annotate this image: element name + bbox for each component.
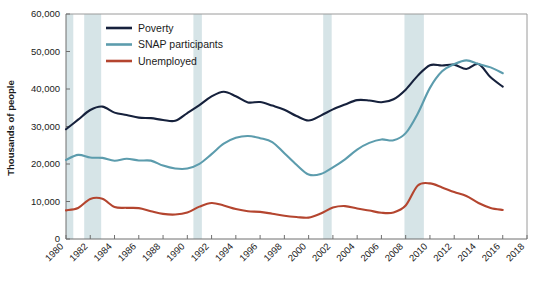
y-tick-label: 50,000 [31,46,60,57]
chart-container: 010,00020,00030,00040,00050,00060,000 19… [0,0,541,282]
y-axis-label: Thousands of people [5,80,16,176]
legend-label-snap-participants: SNAP participants [138,38,223,50]
legend-label-unemployed: Unemployed [138,55,197,67]
recession-band-4 [323,14,331,239]
y-tick-label: 10,000 [31,196,60,207]
y-tick-label: 60,000 [31,8,60,19]
line-chart: 010,00020,00030,00040,00050,00060,000 19… [0,0,541,282]
recession-band-5 [404,14,423,239]
y-tick-label: 30,000 [31,121,60,132]
legend-label-poverty: Poverty [138,22,174,34]
recession-band-2 [84,14,101,239]
y-tick-label: 20,000 [31,158,60,169]
y-tick-label: 40,000 [31,83,60,94]
